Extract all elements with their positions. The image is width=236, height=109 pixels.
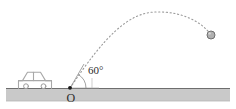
projectile-ball — [207, 31, 215, 39]
car-rear-wheel — [41, 84, 46, 89]
car-front-wheel — [24, 84, 29, 89]
projectile-diagram: 60° O — [0, 0, 236, 109]
angle-arc — [78, 74, 86, 88]
ground-band — [6, 89, 230, 102]
ground-fill — [6, 89, 230, 102]
projectile-ball-highlight — [208, 32, 210, 34]
car-illustration — [19, 72, 52, 88]
origin-dot — [68, 86, 72, 90]
projectile-trajectory — [70, 12, 211, 88]
origin-label: O — [67, 91, 76, 105]
angle-label: 60° — [88, 64, 103, 76]
diagram-canvas: 60° O — [0, 0, 236, 109]
